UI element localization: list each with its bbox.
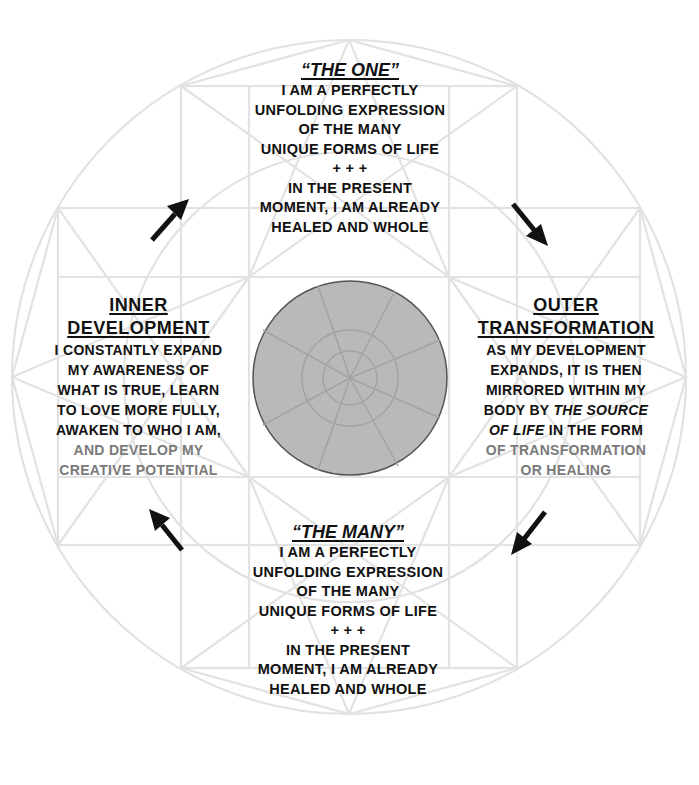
the-many-separator: + + +: [228, 621, 468, 641]
the-many-line: UNFOLDING EXPRESSION: [228, 563, 468, 583]
the-many-line: IN THE PRESENT: [228, 641, 468, 661]
inner-development-block: INNER DEVELOPMENT I CONSTANTLY EXPAND MY…: [36, 294, 241, 480]
inner-development-line: AWAKEN TO WHO I AM,: [36, 420, 241, 440]
inner-development-title-1: INNER: [36, 294, 241, 317]
source-of-life-emphasis: THE SOURCE: [553, 402, 648, 418]
arrow-down-right-icon: [513, 204, 548, 246]
the-many-line: MOMENT, I AM ALREADY: [228, 660, 468, 680]
outer-transformation-title-1: OUTER: [466, 294, 666, 317]
inner-development-line: WHAT IS TRUE, LEARN: [36, 380, 241, 400]
line4-prefix: BODY BY: [484, 402, 554, 418]
outer-transformation-faded-line: OF TRANSFORMATION: [466, 440, 666, 460]
the-one-separator: + + +: [230, 159, 470, 179]
outer-transformation-line: OF LIFE IN THE FORM: [466, 420, 666, 440]
the-one-line: HEALED AND WHOLE: [230, 218, 470, 238]
center-disc: [253, 281, 447, 475]
the-many-line: I AM A PERFECTLY: [228, 543, 468, 563]
inner-development-line: I CONSTANTLY EXPAND: [36, 340, 241, 360]
the-one-title: “THE ONE”: [230, 60, 470, 81]
line5-suffix: IN THE FORM: [545, 422, 643, 438]
inner-development-line: TO LOVE MORE FULLY,: [36, 400, 241, 420]
inner-development-line: MY AWARENESS OF: [36, 360, 241, 380]
arrow-up-left-icon: [149, 509, 182, 550]
outer-transformation-line: MIRRORED WITHIN MY: [466, 380, 666, 400]
outer-transformation-faded-line: OR HEALING: [466, 460, 666, 480]
the-one-line: MOMENT, I AM ALREADY: [230, 198, 470, 218]
outer-transformation-line: BODY BY THE SOURCE: [466, 400, 666, 420]
outer-transformation-block: OUTER TRANSFORMATION AS MY DEVELOPMENT E…: [466, 294, 666, 480]
the-many-line: OF THE MANY: [228, 582, 468, 602]
the-many-block: “THE MANY” I AM A PERFECTLY UNFOLDING EX…: [228, 522, 468, 699]
arrow-up-right-icon: [152, 199, 189, 240]
outer-transformation-line: EXPANDS, IT IS THEN: [466, 360, 666, 380]
the-many-title: “THE MANY”: [228, 522, 468, 543]
the-one-line: I AM A PERFECTLY: [230, 81, 470, 101]
the-many-line: UNIQUE FORMS OF LIFE: [228, 602, 468, 622]
the-one-line: UNIQUE FORMS OF LIFE: [230, 140, 470, 160]
the-one-line: OF THE MANY: [230, 120, 470, 140]
inner-development-faded-line: AND DEVELOP MY: [36, 440, 241, 460]
outer-transformation-line: AS MY DEVELOPMENT: [466, 340, 666, 360]
the-one-line: UNFOLDING EXPRESSION: [230, 101, 470, 121]
the-many-line: HEALED AND WHOLE: [228, 680, 468, 700]
outer-transformation-title-2: TRANSFORMATION: [466, 317, 666, 340]
the-one-block: “THE ONE” I AM A PERFECTLY UNFOLDING EXP…: [230, 60, 470, 237]
inner-development-faded-line: CREATIVE POTENTIAL: [36, 460, 241, 480]
inner-development-title-2: DEVELOPMENT: [36, 317, 241, 340]
the-one-line: IN THE PRESENT: [230, 179, 470, 199]
source-of-life-emphasis: OF LIFE: [489, 422, 545, 438]
